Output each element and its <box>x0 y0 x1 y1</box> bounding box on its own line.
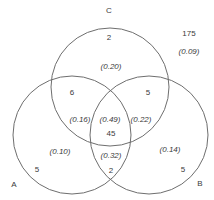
region-c-only-proportion: (0.20) <box>101 62 122 71</box>
region-a-c-count: 6 <box>70 88 75 97</box>
region-b-only-proportion: (0.14) <box>160 145 181 154</box>
region-a-b-c-proportion: (0.49) <box>100 115 121 124</box>
set-a-label: A <box>11 180 17 189</box>
region-a-b-c-count: 45 <box>107 129 116 138</box>
set-c-label: C <box>106 6 112 15</box>
venn-diagram: C A B 2 (0.20) 175 (0.09) 6 5 (0.16) (0.… <box>0 0 214 200</box>
set-b-label: B <box>197 179 202 188</box>
region-b-only-count: 5 <box>181 165 186 174</box>
region-outside-count: 175 <box>182 29 196 38</box>
region-outside-proportion: (0.09) <box>179 47 200 56</box>
region-b-c-proportion: (0.22) <box>131 115 152 124</box>
region-b-c-count: 5 <box>146 88 151 97</box>
region-a-only-count: 5 <box>35 165 40 174</box>
region-a-b-proportion: (0.32) <box>101 151 122 160</box>
region-c-only-count: 2 <box>107 33 112 42</box>
region-a-c-proportion: (0.16) <box>70 115 91 124</box>
region-a-b-count: 2 <box>109 166 114 175</box>
region-a-only-proportion: (0.10) <box>50 147 71 156</box>
